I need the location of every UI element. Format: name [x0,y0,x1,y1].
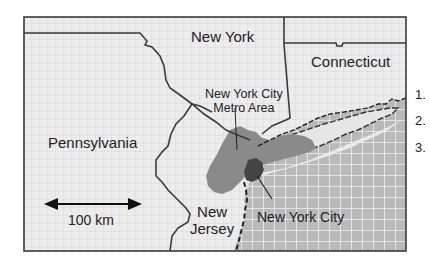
label-metro-area: New York City Metro Area [205,87,283,115]
label-metro-line1: New York City [205,87,283,101]
label-new-jersey: New Jersey [190,203,234,237]
scale-bar-label: 100 km [68,212,114,228]
label-new-york: New York [191,28,254,45]
legend-item-1: 1. [415,87,426,102]
label-new-jersey-line1: New [190,203,234,220]
label-metro-line2: Metro Area [205,101,283,115]
label-connecticut: Connecticut [311,53,390,70]
label-nyc: New York City [257,209,344,225]
legend-item-2: 2. [415,113,426,128]
legend-item-3: 3. [415,140,426,155]
label-new-jersey-line2: Jersey [190,220,234,237]
label-pennsylvania: Pennsylvania [48,134,137,151]
